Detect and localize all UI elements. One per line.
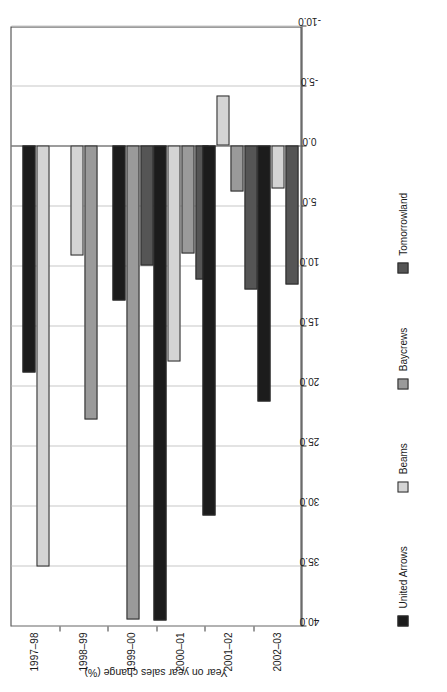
chart-figure: Year on year sales change (%) 40.035.030… bbox=[0, 0, 447, 692]
bar bbox=[84, 145, 97, 419]
legend-swatch-icon bbox=[397, 262, 408, 273]
plot-area bbox=[10, 26, 301, 626]
legend-label: Baycrews bbox=[397, 327, 408, 370]
bar bbox=[216, 95, 229, 145]
category-axis-tick bbox=[156, 626, 157, 631]
value-axis-label: 35.0 bbox=[287, 555, 331, 566]
legend-label: Tomorrowland bbox=[397, 192, 408, 255]
legend-item: Beams bbox=[397, 443, 408, 492]
value-axis-title-wrapper: Year on year sales change (%) bbox=[10, 664, 301, 678]
category-axis-tick bbox=[253, 626, 254, 631]
bar bbox=[181, 145, 194, 253]
bar bbox=[244, 145, 257, 289]
legend-swatch-icon bbox=[397, 481, 408, 492]
legend-label: Beams bbox=[397, 443, 408, 474]
legend-item: United Arrows bbox=[397, 546, 408, 626]
value-axis-label: 40.0 bbox=[287, 615, 331, 626]
category-axis-label: 1999–00 bbox=[125, 632, 136, 686]
bar bbox=[36, 145, 49, 566]
value-axis-label: 25.0 bbox=[287, 435, 331, 446]
value-axis-label: 0.0 bbox=[287, 135, 331, 146]
value-axis-label: 30.0 bbox=[287, 495, 331, 506]
legend-label: United Arrows bbox=[397, 546, 408, 608]
value-axis-title: Year on year sales change (%) bbox=[10, 666, 301, 678]
category-axis-tick bbox=[204, 626, 205, 631]
gridline bbox=[11, 85, 300, 86]
legend-item: Tomorrowland bbox=[397, 192, 408, 273]
value-axis-label: 20.0 bbox=[287, 375, 331, 386]
bar bbox=[153, 145, 166, 620]
bar bbox=[112, 145, 125, 300]
category-axis-label: 1998–99 bbox=[77, 632, 88, 686]
bar bbox=[202, 145, 215, 515]
bar bbox=[257, 145, 270, 401]
value-axis-label: 10.0 bbox=[287, 255, 331, 266]
category-axis-label: 2000–01 bbox=[174, 632, 185, 686]
value-axis-label: 15.0 bbox=[287, 315, 331, 326]
category-axis-tick bbox=[59, 626, 60, 631]
legend-swatch-icon bbox=[397, 615, 408, 626]
bar bbox=[271, 145, 284, 188]
category-axis-label: 2002–03 bbox=[271, 632, 282, 686]
category-axis-label: 2001–02 bbox=[222, 632, 233, 686]
value-axis-label: 5.0 bbox=[287, 195, 331, 206]
category-axis-label: 1997–98 bbox=[28, 632, 39, 686]
bar bbox=[230, 145, 243, 191]
bar bbox=[126, 145, 139, 619]
bar bbox=[70, 145, 83, 255]
bar bbox=[140, 145, 153, 265]
legend-item: Baycrews bbox=[397, 327, 408, 388]
chart-legend: United ArrowsBeamsBaycrewsTomorrowland bbox=[392, 26, 412, 626]
bar bbox=[22, 145, 35, 372]
gridline bbox=[11, 25, 300, 26]
bar bbox=[167, 145, 180, 361]
value-axis-label: -5.0 bbox=[287, 75, 331, 86]
category-axis-tick bbox=[107, 626, 108, 631]
legend-swatch-icon bbox=[397, 378, 408, 389]
value-axis-label: -10.0 bbox=[287, 15, 331, 26]
